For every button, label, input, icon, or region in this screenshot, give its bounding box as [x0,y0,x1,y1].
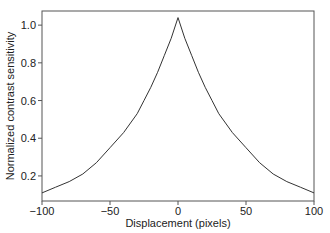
y-tick-label: 1.0 [21,19,36,31]
plot-frame [42,11,314,201]
y-axis-label: Normalized contrast sensitivity [4,31,16,180]
y-tick-label: 0.2 [21,170,36,182]
line-chart: 0.20.40.60.81.0 −100−50050100 Displaceme… [0,0,330,233]
y-tick-label: 0.4 [21,132,36,144]
sensitivity-curve [42,18,314,193]
x-tick-label: −100 [30,205,55,217]
x-tick-label: 100 [305,205,323,217]
x-tick-label: 50 [240,205,252,217]
x-axis-label: Displacement (pixels) [125,217,230,229]
x-tick-label: −50 [101,205,120,217]
y-axis-ticks: 0.20.40.60.81.0 [21,19,42,182]
y-tick-label: 0.8 [21,57,36,69]
x-axis-ticks: −100−50050100 [30,201,324,217]
x-tick-label: 0 [175,205,181,217]
y-tick-label: 0.6 [21,95,36,107]
